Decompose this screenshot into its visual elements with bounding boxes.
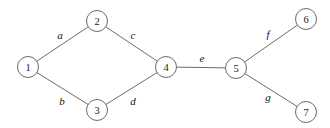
- node-label-2: 2: [94, 16, 99, 27]
- edge-label-b: b: [59, 95, 65, 107]
- graph-node-6: 6: [296, 9, 317, 30]
- edge-label-e: e: [200, 52, 205, 64]
- graph-node-7: 7: [296, 102, 317, 123]
- node-label-6: 6: [303, 14, 308, 25]
- graph-node-2: 2: [87, 11, 108, 32]
- edge-label-c: c: [131, 29, 136, 41]
- node-label-5: 5: [233, 63, 238, 74]
- graph-diagram: 1234567 abcdefg: [0, 0, 330, 128]
- graph-node-4: 4: [156, 57, 177, 78]
- node-label-7: 7: [303, 107, 308, 118]
- node-label-1: 1: [25, 62, 30, 73]
- node-label-3: 3: [94, 105, 99, 116]
- edge-label-g: g: [265, 91, 271, 103]
- edge-label-a: a: [57, 29, 63, 41]
- graph-node-3: 3: [87, 100, 108, 121]
- graph-edge-f: [245, 25, 298, 62]
- graph-node-1: 1: [18, 57, 39, 78]
- graph-canvas: 1234567 abcdefg: [0, 0, 330, 128]
- graph-edge-g: [245, 74, 297, 107]
- node-label-4: 4: [163, 62, 169, 73]
- graph-edge-e: [177, 67, 226, 68]
- edge-label-d: d: [130, 95, 136, 107]
- graph-node-5: 5: [226, 58, 247, 79]
- edge-label-f: f: [266, 28, 271, 40]
